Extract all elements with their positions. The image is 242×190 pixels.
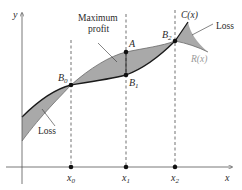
profit-diagram: y x Maximum profit Loss Loss C(x) R(x) B… — [0, 0, 242, 190]
point-a-label: A — [128, 38, 136, 49]
point-x2 — [173, 165, 178, 170]
x-axis-label: x — [224, 172, 230, 183]
loss-right-label: Loss — [216, 21, 234, 31]
point-x1 — [124, 165, 129, 170]
loss-left-pointer — [42, 109, 55, 126]
loss-region-right — [175, 22, 208, 52]
tick-label-x2: x2 — [170, 172, 179, 185]
revenue-curve-label: R(x) — [190, 54, 207, 65]
point-b0-label: B0 — [58, 72, 68, 85]
y-axis-label: y — [12, 9, 18, 20]
point-x0 — [69, 165, 74, 170]
tick-label-x0: x0 — [66, 172, 75, 185]
loss-left-label: Loss — [38, 126, 56, 136]
profit-region — [71, 41, 175, 85]
point-a — [124, 50, 129, 55]
max-profit-label-line2: profit — [88, 24, 109, 34]
point-b2 — [173, 39, 178, 44]
max-profit-label-line1: Maximum — [78, 13, 118, 23]
cost-curve-label: C(x) — [181, 10, 198, 21]
point-b2-label: B2 — [162, 29, 172, 42]
loss-right-pointer — [192, 24, 213, 35]
point-b1 — [124, 73, 129, 78]
tick-label-x1: x1 — [121, 172, 130, 185]
point-b0 — [69, 83, 74, 88]
point-b1-label: B1 — [129, 77, 139, 90]
